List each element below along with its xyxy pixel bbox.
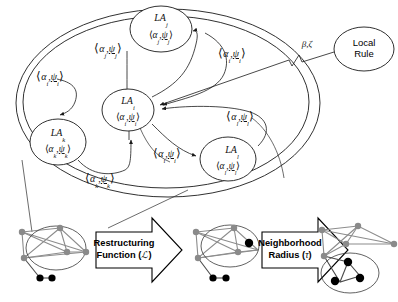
graph-stage-1: [19, 225, 89, 282]
neighborhood-label-line1: Neighborhood: [258, 238, 322, 248]
node-la-j-subscript: j: [165, 21, 168, 28]
svg-text:⟨αi,ψi⟩: ⟨αi,ψi⟩: [153, 146, 181, 164]
node-la-i[interactable]: LAi ⟨αi,ψi⟩: [102, 89, 154, 131]
diagram-canvas: LAj ⟨αj,ψj⟩ LAi ⟨αi,ψi⟩ LAk ⟨αk,ψk⟩: [0, 0, 398, 302]
svg-text:⟨αl,ψl⟩: ⟨αl,ψl⟩: [226, 109, 254, 127]
node-la-i-subscript: i: [133, 104, 135, 111]
node-la-l-subscript: l: [237, 153, 239, 160]
edge-label-i-to-k: ⟨αi,ψi⟩: [36, 69, 64, 87]
edge-label-l-to-i: ⟨αl,ψl⟩: [226, 109, 254, 127]
magnify-lines: [22, 160, 188, 232]
node-la-l-name: LA: [224, 144, 238, 155]
node-la-i-name: LA: [120, 95, 134, 106]
arrow-restructuring-function[interactable]: Restructuring Function (ℒ): [94, 218, 182, 282]
local-rule-connector: β,ζ: [160, 39, 334, 105]
restructuring-label-line2: Function (ℒ): [96, 250, 151, 260]
edge-label-i-to-j: ⟨αi,ψi⟩: [218, 46, 246, 64]
node-la-k-name: LA: [50, 127, 64, 138]
svg-text:⟨αi,ψi⟩: ⟨αi,ψi⟩: [36, 69, 64, 87]
neighborhood-label-line2: Radius (τ): [268, 250, 311, 260]
local-rule-params: β,ζ: [301, 39, 314, 49]
node-la-l[interactable]: LAl ⟨αl,ψl⟩: [200, 137, 256, 181]
edge-label-j-to-i: ⟨αj,ψj⟩: [94, 41, 122, 59]
svg-text:⟨αk,ψk⟩: ⟨αk,ψk⟩: [85, 171, 115, 189]
edge-label-i-to-l: ⟨αi,ψi⟩: [153, 146, 181, 164]
local-rule-node[interactable]: Local Rule: [334, 27, 394, 71]
node-la-j-name: LA: [153, 12, 167, 23]
local-rule-line2: Rule: [354, 48, 374, 59]
restructuring-label-line1: Restructuring: [94, 238, 155, 248]
figure-root: LAj ⟨αj,ψj⟩ LAi ⟨αi,ψi⟩ LAk ⟨αk,ψk⟩: [0, 0, 398, 302]
svg-text:⟨αj,ψj⟩: ⟨αj,ψj⟩: [94, 41, 122, 59]
node-la-k-close: ⟩: [67, 144, 71, 154]
edge-label-k-to-i: ⟨αk,ψk⟩: [85, 171, 115, 189]
graph-stage-2: [193, 225, 259, 282]
svg-text:⟨αi,ψi⟩: ⟨αi,ψi⟩: [218, 46, 246, 64]
node-la-i-close: ⟩: [136, 112, 140, 122]
local-rule-line1: Local: [353, 37, 376, 48]
node-la-l-close: ⟩: [236, 161, 240, 171]
node-la-j[interactable]: LAj ⟨αj,ψj⟩: [130, 6, 192, 52]
node-la-j-close: ⟩: [169, 30, 173, 40]
node-la-k[interactable]: LAk ⟨αk,ψk⟩: [30, 119, 86, 165]
